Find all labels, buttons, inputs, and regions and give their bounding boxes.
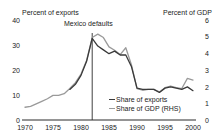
legend-label: Share of GDP (RHS) — [116, 104, 181, 113]
plot-area — [0, 0, 218, 137]
chart-figure: Percent of exports Percent of GDP Mexico… — [0, 0, 218, 137]
legend-label: Share of exports — [116, 95, 167, 104]
legend-item-share-of-exports[interactable]: Share of exports — [109, 95, 181, 104]
legend: Share of exports Share of GDP (RHS) — [109, 95, 181, 113]
series-line-share-of-exports — [70, 38, 193, 92]
legend-item-share-of-gdp[interactable]: Share of GDP (RHS) — [109, 104, 181, 113]
legend-swatch-icon — [109, 108, 115, 109]
legend-swatch-icon — [109, 99, 115, 100]
